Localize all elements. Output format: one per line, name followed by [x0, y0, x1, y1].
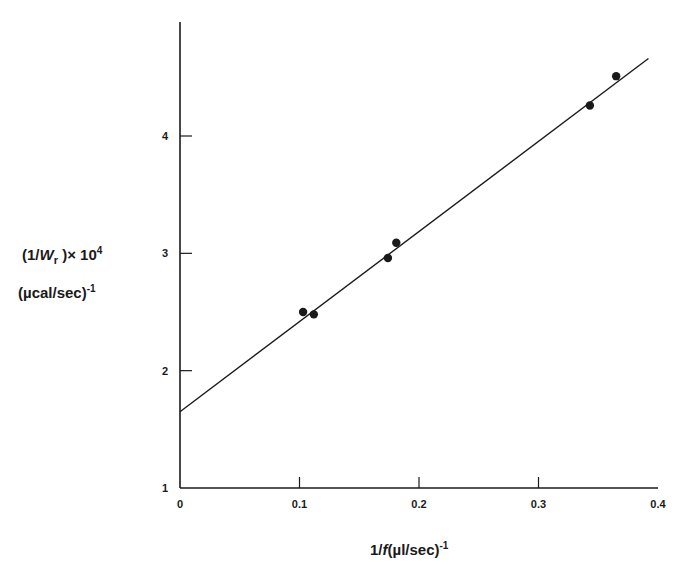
- x-tick-label: 0.2: [411, 498, 426, 510]
- ticks: 00.10.20.30.41234: [162, 130, 667, 510]
- x-units: (µl/sec): [388, 541, 440, 558]
- x-tick-label: 0.3: [531, 498, 546, 510]
- y-units: (µcal/sec): [18, 284, 87, 301]
- data-points: [299, 72, 620, 319]
- axes: [180, 22, 658, 488]
- y-units-exponent: -1: [87, 283, 96, 294]
- y-tick-label: 4: [162, 130, 169, 142]
- x-tick-label: 0.4: [650, 498, 666, 510]
- y-title-part: )× 10: [58, 246, 97, 263]
- y-tick-label: 3: [162, 247, 168, 259]
- x-units-exponent: -1: [440, 540, 449, 551]
- y-tick-label: 2: [162, 365, 168, 377]
- regression-line: [180, 59, 648, 412]
- fit-line: [180, 59, 648, 412]
- chart-plot-area: 00.10.20.30.41234: [0, 0, 686, 576]
- data-point: [299, 308, 307, 316]
- data-point: [392, 239, 400, 247]
- x-tick-label: 0.1: [292, 498, 307, 510]
- x-tick-label: 0: [177, 498, 183, 510]
- x-axis-title: 1/f(µl/sec)-1: [370, 540, 448, 558]
- y-title-part: (1/: [22, 246, 40, 263]
- y-title-exponent: 4: [97, 245, 103, 256]
- data-point: [586, 101, 594, 109]
- data-point: [612, 72, 620, 80]
- data-point: [310, 310, 318, 318]
- y-title-symbol: W: [40, 246, 54, 263]
- y-axis-title: (1/Wr )× 104: [22, 246, 102, 266]
- y-axis-units: (µcal/sec)-1: [18, 284, 96, 300]
- x-title-part: 1/: [370, 541, 383, 558]
- y-tick-label: 1: [162, 482, 168, 494]
- data-point: [384, 254, 392, 262]
